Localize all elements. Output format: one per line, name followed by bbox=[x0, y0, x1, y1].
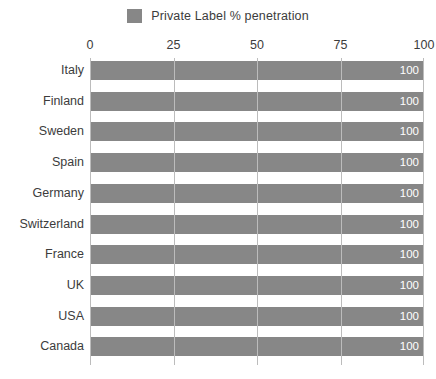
bar-row: 100 bbox=[90, 276, 424, 295]
bar-row: 100 bbox=[90, 153, 424, 172]
y-axis-category-label: Finland bbox=[0, 92, 84, 111]
bar[interactable] bbox=[90, 245, 424, 264]
bar-value-label: 100 bbox=[400, 61, 419, 80]
bar[interactable] bbox=[90, 215, 424, 234]
bar-row: 100 bbox=[90, 92, 424, 111]
bar-value-label: 100 bbox=[400, 122, 419, 141]
bar[interactable] bbox=[90, 61, 424, 80]
y-axis-category-label: Switzerland bbox=[0, 215, 84, 234]
legend-label: Private Label % penetration bbox=[151, 9, 309, 23]
y-axis-category-label: UK bbox=[0, 276, 84, 295]
bar-chart: Private Label % penetration 0255075100 I… bbox=[0, 0, 436, 379]
bar-row: 100 bbox=[90, 215, 424, 234]
x-axis-tick-label: 50 bbox=[250, 38, 264, 52]
bar-row: 100 bbox=[90, 337, 424, 356]
bar-row: 100 bbox=[90, 61, 424, 80]
bar-row: 100 bbox=[90, 307, 424, 326]
x-axis-tick-labels: 0255075100 bbox=[0, 38, 436, 54]
bar[interactable] bbox=[90, 307, 424, 326]
y-axis-category-label: Germany bbox=[0, 184, 84, 203]
chart-legend: Private Label % penetration bbox=[0, 9, 436, 23]
bar[interactable] bbox=[90, 184, 424, 203]
x-axis-tick-label: 25 bbox=[167, 38, 181, 52]
bar-row: 100 bbox=[90, 184, 424, 203]
x-axis-tick-label: 75 bbox=[334, 38, 348, 52]
plot-area: 100100100100100100100100100100 bbox=[90, 58, 424, 365]
bar-value-label: 100 bbox=[400, 92, 419, 111]
bar-row: 100 bbox=[90, 122, 424, 141]
bar[interactable] bbox=[90, 337, 424, 356]
x-axis-tick-label: 0 bbox=[87, 38, 94, 52]
y-axis-category-label: France bbox=[0, 245, 84, 264]
bar-row: 100 bbox=[90, 245, 424, 264]
bar-value-label: 100 bbox=[400, 215, 419, 234]
y-axis-category-label: Canada bbox=[0, 337, 84, 356]
bar-series: 100100100100100100100100100100 bbox=[90, 58, 424, 365]
y-axis-category-label: Sweden bbox=[0, 122, 84, 141]
bar-value-label: 100 bbox=[400, 337, 419, 356]
bar-value-label: 100 bbox=[400, 307, 419, 326]
legend-color-swatch-icon bbox=[127, 9, 142, 23]
y-axis-category-label: Italy bbox=[0, 61, 84, 80]
bar[interactable] bbox=[90, 92, 424, 111]
y-axis-category-labels: ItalyFinlandSwedenSpainGermanySwitzerlan… bbox=[0, 58, 84, 365]
y-axis-category-label: Spain bbox=[0, 153, 84, 172]
bar[interactable] bbox=[90, 153, 424, 172]
bar-value-label: 100 bbox=[400, 153, 419, 172]
bar[interactable] bbox=[90, 122, 424, 141]
bar-value-label: 100 bbox=[400, 245, 419, 264]
bar-value-label: 100 bbox=[400, 276, 419, 295]
x-axis-tick-label: 100 bbox=[414, 38, 435, 52]
bar[interactable] bbox=[90, 276, 424, 295]
bar-value-label: 100 bbox=[400, 184, 419, 203]
y-axis-category-label: USA bbox=[0, 307, 84, 326]
